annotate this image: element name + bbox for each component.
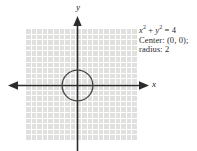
- x-axis-left-arrow-icon: [8, 81, 18, 89]
- x-axis-label: x: [152, 79, 156, 89]
- x-axis-right-arrow-icon: [139, 81, 149, 89]
- equation-equals: =: [162, 25, 171, 35]
- annotation-radius: radius: 2: [139, 45, 197, 55]
- figure-canvas: y x x2 + y2 = 4 Center: (0, 0); radius: …: [0, 0, 197, 151]
- equation-value: 4: [172, 25, 176, 35]
- y-axis-up-arrow-icon: [73, 16, 81, 26]
- y-axis-label: y: [76, 2, 80, 12]
- annotation-block: x2 + y2 = 4 Center: (0, 0); radius: 2: [139, 26, 197, 55]
- axes-and-circle-overlay: [0, 0, 197, 151]
- equation-plus: +: [146, 25, 155, 35]
